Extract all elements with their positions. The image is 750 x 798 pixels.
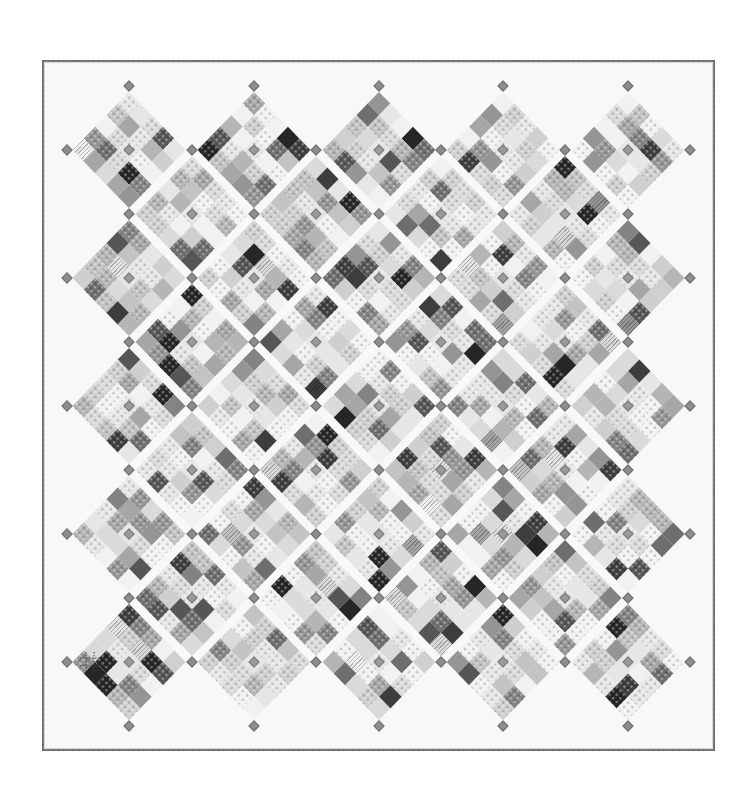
cornerstone-diamond	[373, 208, 384, 219]
cornerstone-diamond	[622, 208, 633, 219]
cornerstone-diamond	[373, 592, 384, 603]
cornerstone-diamond	[186, 528, 197, 539]
cornerstone-diamond	[311, 528, 322, 539]
cornerstone-diamond	[186, 400, 197, 411]
cornerstone-diamond	[560, 272, 571, 283]
cornerstone-diamond	[435, 272, 446, 283]
cornerstone-diamond	[373, 464, 384, 475]
cornerstone-diamond	[124, 592, 135, 603]
cornerstone-diamond	[248, 592, 259, 603]
cornerstone-diamond	[248, 336, 259, 347]
cornerstone-diamond	[560, 400, 571, 411]
cornerstone-diamond	[684, 400, 695, 411]
cornerstone-diamond	[61, 528, 72, 539]
cornerstone-diamond	[124, 720, 135, 731]
crosshatch-guide-icon	[79, 651, 101, 673]
cornerstone-diamond	[61, 272, 72, 283]
cornerstone-diamond	[622, 720, 633, 731]
cornerstone-diamond	[124, 208, 135, 219]
cornerstone-diamond	[435, 528, 446, 539]
cornerstone-diamond	[497, 208, 508, 219]
cornerstone-diamond	[186, 656, 197, 667]
cornerstone-diamond	[684, 144, 695, 155]
cornerstone-diamond	[560, 528, 571, 539]
cornerstone-diamond	[560, 656, 571, 667]
quilt-diagram	[0, 0, 750, 798]
cornerstone-diamond	[248, 80, 259, 91]
cornerstone-diamond	[622, 592, 633, 603]
cornerstone-diamond	[622, 464, 633, 475]
cornerstone-diamond	[560, 144, 571, 155]
cornerstone-diamond	[311, 144, 322, 155]
cornerstone-diamond	[497, 80, 508, 91]
cornerstone-diamond	[124, 80, 135, 91]
cornerstone-diamond	[684, 272, 695, 283]
cornerstone-diamond	[497, 464, 508, 475]
cornerstone-diamond	[373, 80, 384, 91]
cornerstone-diamond	[497, 336, 508, 347]
cornerstone-diamond	[622, 80, 633, 91]
cornerstone-diamond	[186, 144, 197, 155]
cornerstone-diamond	[435, 656, 446, 667]
cornerstone-diamond	[497, 592, 508, 603]
cornerstone-diamond	[248, 720, 259, 731]
cornerstone-diamond	[684, 656, 695, 667]
cornerstone-diamond	[435, 144, 446, 155]
cornerstone-diamond	[61, 144, 72, 155]
cornerstone-diamond	[248, 208, 259, 219]
cornerstone-diamond	[622, 336, 633, 347]
cornerstone-diamond	[311, 272, 322, 283]
cornerstone-diamond	[311, 400, 322, 411]
cornerstone-diamond	[311, 656, 322, 667]
cornerstone-diamond	[435, 400, 446, 411]
cornerstone-diamond	[248, 464, 259, 475]
cornerstone-diamond	[124, 336, 135, 347]
cornerstone-diamond	[186, 272, 197, 283]
cornerstone-diamond	[124, 464, 135, 475]
cornerstone-diamond	[373, 720, 384, 731]
quilt-field	[0, 0, 750, 798]
cornerstone-diamond	[373, 336, 384, 347]
cornerstone-diamond	[684, 528, 695, 539]
cornerstone-diamond	[497, 720, 508, 731]
cornerstone-diamond	[61, 656, 72, 667]
cornerstone-diamond	[61, 400, 72, 411]
